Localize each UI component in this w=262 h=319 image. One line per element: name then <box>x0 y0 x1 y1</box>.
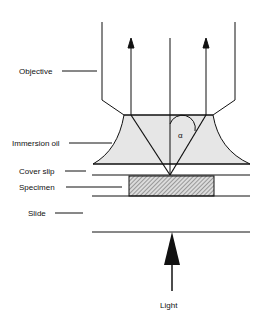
svg-text:Cover slip: Cover slip <box>19 167 55 176</box>
microscope-diagram: α Objective Immersion oil Cover slip Spe… <box>0 0 262 319</box>
svg-text:Immersion oil: Immersion oil <box>12 139 60 148</box>
exit-ray-arrows <box>128 38 209 115</box>
label-cover-slip: Cover slip <box>19 167 86 176</box>
immersion-oil-shape <box>93 115 250 164</box>
svg-text:Specimen: Specimen <box>19 183 55 192</box>
label-specimen: Specimen <box>19 183 122 192</box>
angle-alpha-label: α <box>178 131 183 140</box>
label-light: Light <box>160 301 178 310</box>
label-immersion-oil: Immersion oil <box>12 139 112 148</box>
svg-text:Slide: Slide <box>28 209 46 218</box>
svg-text:Objective: Objective <box>19 67 53 76</box>
objective-lens <box>102 22 235 115</box>
specimen-rect <box>129 176 214 196</box>
light-arrow <box>164 232 180 291</box>
label-objective: Objective <box>19 67 97 76</box>
label-slide: Slide <box>28 209 83 218</box>
